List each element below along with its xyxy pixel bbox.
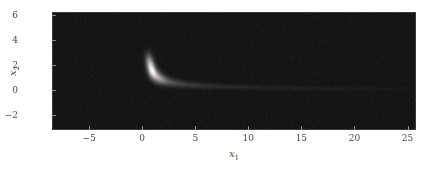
x-tick-mark	[195, 126, 196, 130]
x-axis-label-subscript: 1	[235, 154, 239, 162]
y-tick-mark	[52, 90, 56, 91]
x-axis-label: x1	[229, 148, 239, 162]
y-tick-label: 6	[12, 10, 18, 20]
y-tick-mark	[52, 115, 56, 116]
y-tick-label: 4	[12, 35, 18, 45]
plot-area	[52, 12, 416, 130]
density-heatmap-canvas	[52, 12, 416, 130]
x-tick-label: 15	[296, 133, 307, 143]
x-tick-label: 25	[402, 133, 413, 143]
x-tick-mark	[89, 126, 90, 130]
x-tick-label: 20	[349, 133, 360, 143]
x-tick-label: 0	[139, 133, 145, 143]
x-tick-mark	[301, 126, 302, 130]
y-tick-mark	[52, 40, 56, 41]
x-tick-label: 5	[192, 133, 198, 143]
x-tick-mark	[248, 126, 249, 130]
x-tick-mark	[354, 126, 355, 130]
y-tick-mark	[52, 15, 56, 16]
x-tick-mark	[408, 126, 409, 130]
y-tick-mark	[52, 65, 56, 66]
y-tick-label: 0	[12, 85, 18, 95]
x-tick-mark	[142, 126, 143, 130]
x-tick-label: 10	[243, 133, 254, 143]
y-tick-label: 2	[12, 60, 18, 70]
density-plot-figure: x1 x2 −50510152025−20246	[0, 0, 436, 169]
y-tick-label: −2	[5, 110, 18, 120]
x-tick-label: −5	[83, 133, 96, 143]
